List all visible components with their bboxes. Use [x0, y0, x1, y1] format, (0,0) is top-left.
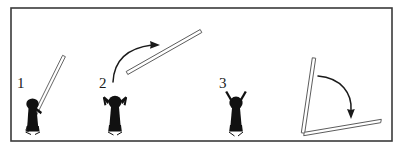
- stage-2-label: 2: [99, 75, 107, 91]
- stage-3-label: 3: [219, 75, 227, 91]
- stage-1-label: 1: [17, 75, 25, 91]
- diagram-frame: [11, 8, 392, 141]
- pole-sequence-diagram: 1: [0, 0, 403, 152]
- figure-root: 1: [0, 0, 403, 152]
